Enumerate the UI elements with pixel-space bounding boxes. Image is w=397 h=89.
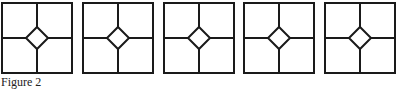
figure-caption: Figure 2 (1, 75, 41, 89)
panel-3 (164, 3, 234, 73)
panel-1 (2, 3, 72, 73)
figure-panels (0, 0, 397, 78)
center-diamond (268, 27, 290, 49)
panel-5 (325, 3, 395, 73)
center-diamond (26, 27, 48, 49)
panel-2 (83, 3, 153, 73)
panel-4 (244, 3, 314, 73)
center-diamond (107, 27, 129, 49)
center-diamond (349, 27, 371, 49)
center-diamond (188, 27, 210, 49)
